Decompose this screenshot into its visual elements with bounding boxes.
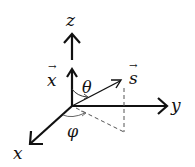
phi-arc	[63, 113, 85, 117]
x-vector-arrow	[67, 69, 77, 106]
x-axis	[30, 106, 72, 144]
x-vector-overarrow: →	[48, 61, 57, 72]
s-vector-arrow	[72, 80, 121, 106]
x-vector-label: x	[47, 70, 57, 90]
theta-label: θ	[82, 78, 92, 97]
y-axis	[72, 98, 167, 114]
phi-label: φ	[67, 122, 79, 141]
coordinate-diagram: z y x x → s → θ φ	[0, 0, 195, 167]
z-axis-label: z	[65, 10, 76, 30]
y-axis-label: y	[170, 95, 181, 115]
x-axis-label: x	[13, 143, 23, 163]
s-vector-overarrow: →	[129, 60, 138, 71]
s-vector-label: s	[129, 68, 138, 88]
z-axis	[64, 34, 80, 60]
